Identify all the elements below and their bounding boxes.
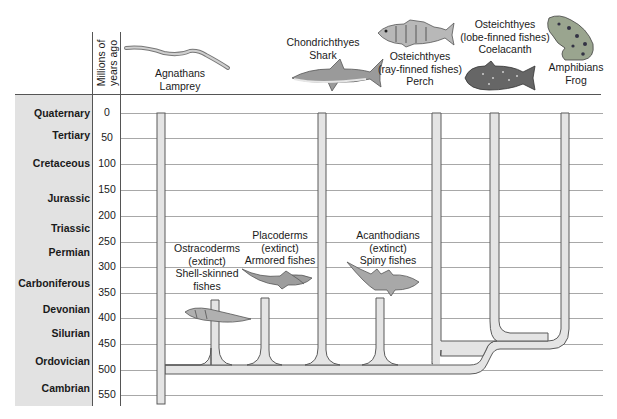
example-name: Frog: [540, 74, 612, 87]
example-name: Perch: [370, 75, 470, 88]
label-ray-finned: Osteichthyes (ray-finned fishes) Perch: [370, 50, 470, 88]
label-acanthodians: Acanthodians (extinct) Spiny fishes: [348, 229, 428, 267]
example-name: Coelacanth: [450, 43, 560, 56]
extinct-note: (extinct): [348, 242, 428, 255]
group-name: Placoderms: [240, 229, 320, 242]
extinct-note: (extinct): [240, 242, 320, 255]
coelacanth-icon: [463, 60, 537, 92]
label-chondrichthyes: Chondrichthyes Shark: [278, 36, 368, 61]
perch-icon: [376, 18, 456, 48]
common-name: Armored fishes: [240, 254, 320, 267]
common-name-cont: fishes: [162, 280, 252, 293]
label-agnathans: Agnathans Lamprey: [140, 67, 220, 92]
group-name: Ostracoderms: [162, 242, 252, 255]
group-subtitle: (ray-finned fishes): [370, 63, 470, 76]
branch-acanthodians: [362, 298, 398, 365]
group-subtitle: (lobe-finned fishes): [450, 31, 560, 44]
label-lobe-finned: Osteichthyes (lobe-finned fishes) Coelac…: [450, 18, 560, 56]
extinct-note: (extinct): [162, 255, 252, 268]
example-name: Shark: [278, 49, 368, 62]
label-placoderms: Placoderms (extinct) Armored fishes: [240, 229, 320, 267]
label-amphibians: Amphibians Frog: [540, 61, 612, 86]
branch-ray-finned: [432, 113, 497, 364]
example-name: Lamprey: [140, 80, 220, 93]
group-name: Amphibians: [540, 61, 612, 74]
branch-lobe-finned: [490, 113, 548, 341]
common-name: Shell-skinned: [162, 267, 252, 280]
common-name: Spiny fishes: [348, 254, 428, 267]
group-name: Agnathans: [140, 67, 220, 80]
group-name: Acanthodians: [348, 229, 428, 242]
group-name: Chondrichthyes: [278, 36, 368, 49]
ostracoderm-icon: [183, 304, 253, 326]
group-name: Osteichthyes: [450, 18, 560, 31]
label-ostracoderms: Ostracoderms (extinct) Shell-skinned fis…: [162, 242, 252, 292]
